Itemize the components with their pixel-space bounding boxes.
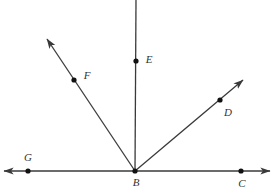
geometry-canvas: GFEDCB [0,0,274,191]
point-label-f: F [83,69,91,81]
point-dot-f [71,77,76,82]
point-label-e: E [145,53,153,65]
point-label-b: B [133,176,140,188]
point-dot-b [132,168,137,173]
ray-b-to-d-upper-right [135,80,243,171]
point-label-g: G [24,151,32,163]
point-dot-g [25,168,30,173]
ray-b-to-f-upper-left [47,39,135,171]
point-label-c: C [238,177,246,189]
ray-b-to-e-vertical [135,0,136,171]
point-dot-d [217,97,222,102]
point-label-d: D [223,106,232,118]
geometry-diagram: GFEDCB [0,0,274,191]
point-dot-c [238,168,243,173]
rays-group [4,0,270,171]
point-dot-e [133,58,138,63]
